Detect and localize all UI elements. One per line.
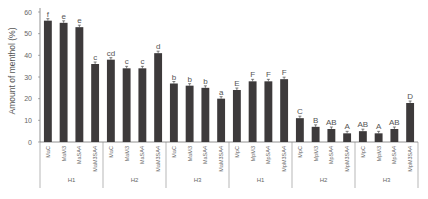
bar [359,131,367,142]
significance-letter: C [297,107,303,116]
group-label: H3 [194,177,202,183]
significance-letter: A [376,122,382,131]
category-label: MpSA4 [328,146,334,164]
category-label: MaM3 [124,146,130,161]
bar [107,60,115,142]
category-label: MpM3 [250,146,256,161]
significance-letter: A [344,122,350,131]
significance-letter: e [61,12,66,21]
bar [280,79,288,142]
category-label: MaSA4 [202,146,208,164]
bar [406,103,414,142]
y-tick-label: 20 [24,95,32,102]
category-label: MaC [171,146,177,158]
bar [249,81,257,142]
category-label: MpM3 [313,146,319,161]
y-tick-label: 30 [24,74,32,81]
category-label: MaSA4 [76,146,82,164]
significance-letter: c [125,57,129,66]
bar [296,118,304,142]
bar [138,68,146,142]
significance-letter: B [313,116,318,125]
bar [390,129,398,142]
bar [75,27,83,142]
category-label: MpM3SA4 [344,146,350,172]
significance-letter: AB [389,118,400,127]
significance-letter: D [407,92,413,101]
category-label: MpC [360,146,366,158]
category-label: MaC [108,146,114,158]
y-tick-label: 10 [24,117,32,124]
significance-letter: c [93,53,97,62]
category-label: MaM3SA4 [218,146,224,172]
group-label: H1 [257,177,265,183]
category-label: MaM3 [187,146,193,161]
y-tick-label: 50 [24,30,32,37]
significance-letter: cd [107,49,115,58]
y-tick-label: 60 [24,9,32,16]
group-label: H2 [131,177,139,183]
bar [327,129,335,142]
bar [233,90,241,142]
group-label: H3 [383,177,391,183]
significance-letter: AB [358,120,369,129]
significance-letter: F [250,70,255,79]
category-label: MaM3 [61,146,67,161]
group-label: H2 [320,177,328,183]
bar [343,133,351,142]
category-label: MpC [297,146,303,158]
chart-svg: 0102030405060fMaCeMaM3eMaSA4cMaM3SA4cdMa… [0,0,428,199]
bar [201,88,209,142]
significance-letter: e [77,16,82,25]
category-label: MaM3SA4 [92,146,98,172]
group-label: H1 [68,177,76,183]
category-label: MpM3SA4 [281,146,287,172]
y-axis-label: Amount of menthol (%) [7,21,17,121]
significance-letter: E [234,79,239,88]
bar [60,23,68,142]
category-label: MpSA4 [265,146,271,164]
significance-letter: AB [326,118,337,127]
significance-letter: b [187,75,192,84]
y-tick-label: 40 [24,52,32,59]
significance-letter: c [140,57,144,66]
significance-letter: b [172,73,177,82]
bar [375,133,383,142]
y-tick-label: 0 [28,139,32,146]
bar [123,68,131,142]
significance-letter: F [266,70,271,79]
significance-letter: F [282,68,287,77]
significance-letter: a [219,88,224,97]
bar [217,99,225,142]
category-label: MpSA4 [391,146,397,164]
category-label: MpM3SA4 [407,146,413,172]
significance-letter: d [156,42,160,51]
bar [44,21,52,142]
bar [186,86,194,142]
category-label: MaC [45,146,51,158]
category-label: MaSA4 [139,146,145,164]
category-label: MpM3 [376,146,382,161]
bar [154,53,162,142]
bar [170,84,178,143]
menthol-bar-chart: Amount of menthol (%) 0102030405060fMaCe… [0,0,428,199]
significance-letter: b [203,77,208,86]
bar [312,127,320,142]
bar [264,81,272,142]
category-label: MaM3SA4 [155,146,161,172]
category-label: MpC [234,146,240,158]
significance-letter: f [47,10,50,19]
bar [91,64,99,142]
